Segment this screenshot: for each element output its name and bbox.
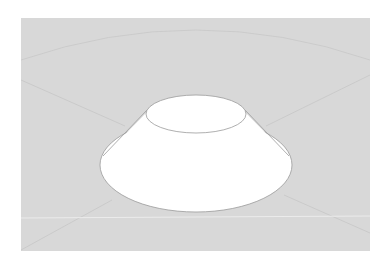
frustum-top-face [146,95,246,133]
diagram-canvas [0,0,389,268]
frustum-diagram [0,0,389,268]
